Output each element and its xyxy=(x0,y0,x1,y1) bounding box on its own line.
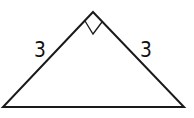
triangle-shape xyxy=(3,12,184,107)
left-leg-label: 3 xyxy=(34,39,46,61)
triangle-diagram: 3 3 xyxy=(0,0,194,118)
right-leg-label: 3 xyxy=(140,39,152,61)
triangle-svg xyxy=(0,0,194,118)
right-angle-marker xyxy=(85,21,102,34)
